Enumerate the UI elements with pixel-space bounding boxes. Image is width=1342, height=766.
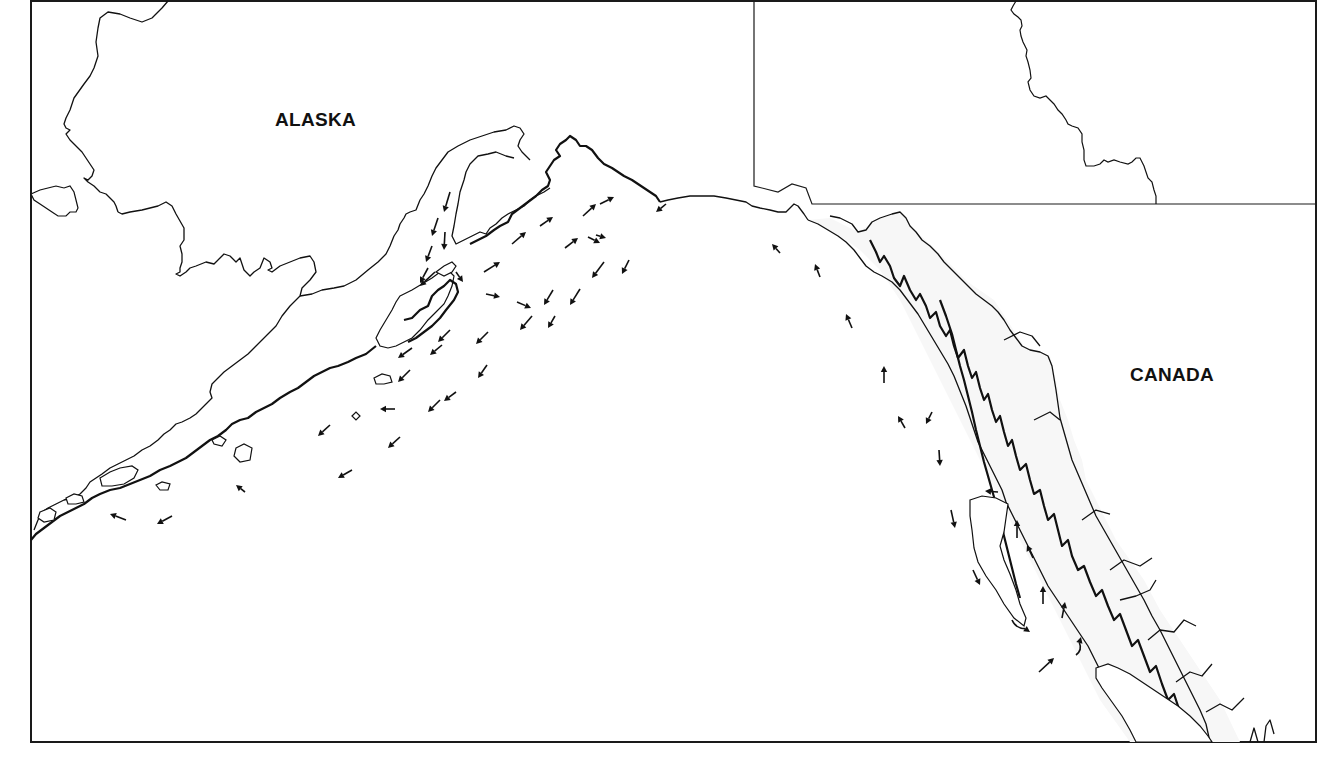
current-arrow-icon <box>951 510 957 528</box>
current-arrow-icon <box>441 232 447 250</box>
current-arrow-icon <box>845 314 852 328</box>
current-arrow-icon <box>431 218 438 236</box>
current-arrow-icon <box>544 290 553 305</box>
kodiak-island <box>376 270 454 348</box>
current-arrow-icon <box>456 272 463 282</box>
current-arrow-icon <box>772 244 780 253</box>
current-arrow-icon <box>398 348 412 358</box>
current-arrow-icon <box>444 392 456 401</box>
current-arrow-icon <box>484 262 500 272</box>
current-arrow-icon <box>520 316 532 330</box>
region-label-alaska: ALASKA <box>275 109 356 130</box>
current-arrow-icon <box>936 450 942 466</box>
current-arrow-icon <box>926 412 932 424</box>
current-arrow-icon <box>1039 658 1054 672</box>
current-arrow-icon <box>430 345 442 355</box>
southeast-coastline <box>808 212 1274 742</box>
current-arrow-icon <box>548 316 555 328</box>
current-arrow-icon <box>110 513 126 520</box>
current-arrow-icon <box>398 370 410 382</box>
current-arrow-icon <box>622 260 629 274</box>
current-arrow-icon <box>592 262 604 278</box>
current-arrow-icon <box>973 570 980 585</box>
current-arrow-icon <box>443 192 450 212</box>
current-arrow-icon <box>512 232 526 244</box>
current-arrow-icon <box>438 330 450 342</box>
alaska-current-map: ALASKA CANADA <box>0 0 1342 766</box>
current-arrow-icon <box>540 217 553 226</box>
current-arrow-icon <box>600 197 614 204</box>
yukon-border-line <box>1011 1 1156 204</box>
current-arrow-icon <box>380 406 395 412</box>
current-arrow-icon <box>338 470 352 478</box>
current-arrow-icon <box>157 516 172 524</box>
region-label-canada: CANADA <box>1130 364 1214 385</box>
current-arrow-icon <box>478 365 487 378</box>
alaska-coastline <box>31 1 808 540</box>
current-arrow-icon <box>318 425 330 436</box>
current-arrow-icon <box>388 437 400 448</box>
st-lawrence-island <box>31 186 78 216</box>
current-arrow-icon <box>656 204 666 212</box>
current-arrow-icon <box>476 332 488 344</box>
current-arrow-icon <box>486 293 500 299</box>
inset-box <box>754 1 1316 204</box>
current-arrow-icon <box>596 233 606 239</box>
current-arrow-icon <box>583 204 596 216</box>
current-arrow-icon <box>428 400 440 412</box>
current-arrow-icon <box>588 237 600 243</box>
current-arrow-icon <box>570 289 580 305</box>
current-arrow-icon <box>517 302 531 309</box>
current-arrow-icon <box>565 238 578 248</box>
current-arrow-icon <box>236 485 245 492</box>
current-arrow-icon <box>814 264 820 277</box>
current-arrow-icon <box>425 246 432 262</box>
current-arrow-icon <box>881 366 887 383</box>
current-arrow-icon <box>898 416 905 428</box>
